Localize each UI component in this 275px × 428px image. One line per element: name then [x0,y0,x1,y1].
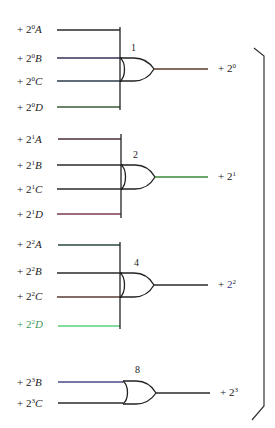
input-label-2-3-C: + 23C [17,397,43,409]
gate-2-group: + 21A + 21B + 21C + 21D 2 + 21 [17,133,236,220]
input-label-2-0-A: + 20A [17,23,42,35]
input-label-2-2-C: + 22C [17,290,43,302]
or-gate-2-back [121,165,126,189]
output-label-2-1: + 21 [218,170,236,182]
right-bracket [252,48,264,420]
gate-2-number: 2 [133,149,138,160]
or-gate-1-back [120,58,125,81]
gate-4-number: 4 [134,257,139,268]
logic-diagram: + 20A + 20B + 20C + 20D 1 + 20 + 21A + 2… [0,0,275,428]
input-label-2-2-B: + 22B [17,265,42,277]
input-label-2-2-A: + 22A [17,238,42,250]
input-label-2-0-C: + 20C [17,75,43,87]
input-label-2-0-D: + 20D [17,101,43,113]
input-label-2-1-B: + 21B [17,159,42,171]
input-label-2-1-A: + 21A [17,133,42,145]
gate-4-group: + 22A + 22B + 22C + 22D 4 + 22 [17,238,236,330]
input-label-2-1-C: + 21C [17,183,43,195]
gate-1-group: + 20A + 20B + 20C + 20D 1 + 20 [17,23,236,113]
gate-1-number: 1 [131,42,136,53]
input-label-2-1-D: + 21D [17,208,43,220]
output-label-2-3: + 23 [220,386,238,398]
input-label-2-0-B: + 20B [17,52,42,64]
or-gate-4-back [120,273,125,297]
or-gate-8-back [123,381,128,404]
input-label-2-3-B: + 23B [17,376,42,388]
gate-8-group: + 23B + 23C 8 + 23 [17,364,238,409]
gate-8-number: 8 [135,364,140,375]
output-label-2-2: + 22 [218,278,236,290]
output-label-2-0: + 20 [218,62,236,74]
input-label-2-2-D: + 22D [17,318,43,330]
